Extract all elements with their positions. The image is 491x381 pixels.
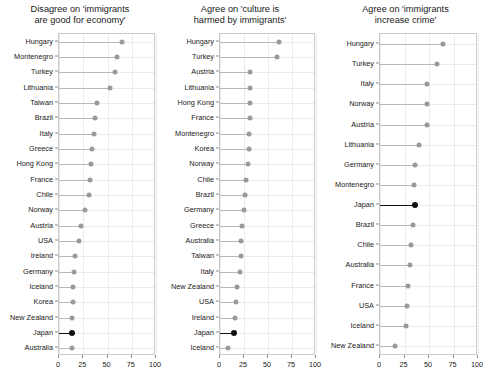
y-axis-label: Italy: [361, 79, 374, 88]
data-point[interactable]: [234, 285, 239, 290]
data-point[interactable]: [73, 254, 78, 259]
data-point[interactable]: [243, 177, 248, 182]
data-point[interactable]: [405, 283, 410, 288]
x-axis-tick-label: 25: [399, 360, 407, 369]
data-point[interactable]: [441, 42, 446, 47]
x-axis-tick: [379, 355, 380, 358]
stem-line: [380, 265, 410, 266]
data-point[interactable]: [405, 303, 410, 308]
gridline-vertical: [220, 34, 221, 354]
data-point[interactable]: [242, 193, 247, 198]
data-point[interactable]: [248, 70, 253, 75]
data-point[interactable]: [246, 147, 251, 152]
x-axis-tick: [315, 355, 316, 358]
x-axis-tick-label: 75: [448, 360, 456, 369]
data-point[interactable]: [425, 102, 430, 107]
data-point[interactable]: [231, 330, 237, 336]
y-axis-label: Hong Kong: [177, 98, 214, 107]
plot-area: [58, 33, 155, 355]
data-point[interactable]: [238, 254, 243, 259]
y-axis-label: Chile: [36, 190, 53, 199]
data-point[interactable]: [246, 162, 251, 167]
data-point[interactable]: [87, 193, 92, 198]
data-point[interactable]: [434, 62, 439, 67]
data-point[interactable]: [69, 315, 74, 320]
y-axis-label: Lithuania: [184, 82, 214, 91]
data-point[interactable]: [412, 202, 418, 208]
stem-line: [380, 44, 443, 45]
data-point[interactable]: [240, 223, 245, 228]
stem-line: [380, 64, 437, 65]
data-point[interactable]: [108, 85, 113, 90]
data-point[interactable]: [234, 300, 239, 305]
data-point[interactable]: [92, 116, 97, 121]
data-point[interactable]: [94, 101, 99, 106]
data-point[interactable]: [76, 239, 81, 244]
data-point[interactable]: [79, 223, 84, 228]
data-point[interactable]: [91, 131, 96, 136]
plot-area: [219, 33, 315, 355]
y-axis-label: Germany: [184, 205, 214, 214]
data-point[interactable]: [82, 208, 87, 213]
x-axis-tick: [404, 355, 405, 358]
data-point[interactable]: [120, 39, 125, 44]
stem-line: [380, 125, 427, 126]
y-axis-label: Japan: [194, 328, 214, 337]
y-axis-label: New Zealand: [171, 282, 214, 291]
data-point[interactable]: [89, 147, 94, 152]
data-point[interactable]: [69, 330, 75, 336]
data-point[interactable]: [70, 285, 75, 290]
data-point[interactable]: [237, 269, 242, 274]
y-axis-label: Italy: [201, 266, 214, 275]
data-point[interactable]: [247, 131, 252, 136]
data-point[interactable]: [403, 323, 408, 328]
x-axis-tick-label: 0: [56, 360, 60, 369]
data-point[interactable]: [242, 208, 247, 213]
data-point[interactable]: [412, 162, 417, 167]
data-point[interactable]: [89, 162, 94, 167]
y-axis-label: France: [30, 174, 53, 183]
data-point[interactable]: [72, 269, 77, 274]
data-point[interactable]: [69, 346, 74, 351]
data-point[interactable]: [233, 315, 238, 320]
data-point[interactable]: [247, 116, 252, 121]
data-point[interactable]: [114, 55, 119, 60]
data-point[interactable]: [276, 39, 281, 44]
data-point[interactable]: [113, 70, 118, 75]
y-axis-label: Australia: [186, 236, 214, 245]
data-point[interactable]: [70, 300, 75, 305]
y-axis-label: Norway: [189, 159, 214, 168]
gridline-vertical: [83, 34, 84, 354]
data-point[interactable]: [409, 243, 414, 248]
y-axis-label: Iceland: [29, 282, 53, 291]
x-axis-tick-label: 0: [217, 360, 221, 369]
data-point[interactable]: [416, 142, 421, 147]
data-point[interactable]: [410, 223, 415, 228]
x-axis-tick-label: 50: [102, 360, 110, 369]
stem-line: [59, 118, 95, 119]
y-axis-label: USA: [359, 300, 374, 309]
stem-line: [59, 103, 97, 104]
y-axis-label: Iceland: [350, 320, 374, 329]
data-point[interactable]: [424, 122, 429, 127]
x-axis-tick-label: 100: [471, 360, 483, 369]
stem-line: [220, 210, 244, 211]
stem-line: [59, 164, 91, 165]
data-point[interactable]: [225, 346, 230, 351]
y-axis-label: Lithuania: [344, 139, 374, 148]
data-point[interactable]: [408, 263, 413, 268]
data-point[interactable]: [87, 177, 92, 182]
gridline-vertical: [478, 34, 479, 354]
stem-line: [380, 326, 406, 327]
data-point[interactable]: [393, 343, 398, 348]
stem-line: [59, 42, 122, 43]
data-point[interactable]: [248, 101, 253, 106]
data-point[interactable]: [412, 182, 417, 187]
data-point[interactable]: [425, 82, 430, 87]
gridline-vertical: [156, 34, 157, 354]
data-point[interactable]: [274, 55, 279, 60]
stem-line: [59, 195, 89, 196]
data-point[interactable]: [248, 85, 253, 90]
gridline-horizontal: [220, 348, 314, 349]
data-point[interactable]: [239, 239, 244, 244]
